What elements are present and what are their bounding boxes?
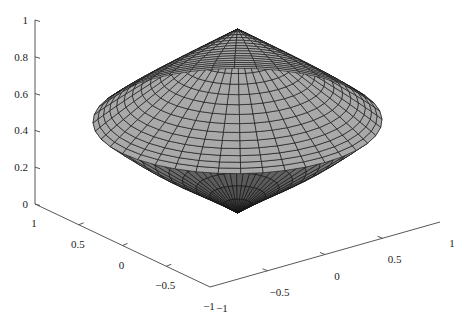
surface-face [240,123,257,132]
surface-face [227,94,239,104]
surface-face [239,104,253,114]
surface-face [240,140,259,148]
surface-face [240,155,261,162]
surface-face [236,40,245,43]
y-tick [79,223,84,225]
y-tick-label: 1 [31,217,37,229]
x-tick-label: 0.5 [388,253,402,265]
surface-mesh [93,29,382,213]
z-tick-label: 0.8 [14,51,28,63]
surface-face [207,122,224,132]
surface-face [218,168,241,174]
z-tick-label: 0 [23,198,29,210]
z-tick [35,20,40,22]
z-tick [35,167,40,169]
x-tick-label: 0 [334,270,340,282]
surface-face [225,114,240,123]
surface-face [223,123,239,132]
z-tick [35,130,40,132]
y-tick [166,264,171,266]
surface-face [219,162,241,168]
surface-face [236,37,243,40]
x-tick-label: −0.5 [270,286,290,298]
surface-face [239,94,251,105]
surface-face [228,84,239,95]
y-tick [123,244,128,246]
surface-face [239,114,254,124]
z-tick [35,57,40,59]
z-tick-label: 0.4 [14,124,28,136]
x-tick [320,253,325,255]
y-tick-label: −0.5 [155,279,175,291]
x-tick [378,236,383,238]
y-tick-label: 0.5 [71,238,85,250]
z-tick-label: 0.2 [14,161,28,173]
x-tick-label: 1 [449,237,455,249]
surface-face [226,105,240,115]
z-tick-label: 1 [23,14,29,26]
surface-face [220,148,240,155]
x-tick-label: −1 [216,302,228,314]
surface-face [205,131,223,140]
surface-face [240,132,258,141]
surface-face [221,140,240,148]
y-tick-label: −1 [203,300,215,312]
surface-face [234,66,257,68]
z-tick [35,94,40,96]
surface-face [219,155,240,162]
surface-plot: 00.20.40.60.8110.50−0.5−1−1−0.500.51 [0,0,455,319]
surface-face [240,148,260,156]
surface-face [222,132,240,141]
y-tick-label: 0 [119,259,125,271]
z-tick-label: 0.6 [14,88,28,100]
x-tick [263,269,268,271]
